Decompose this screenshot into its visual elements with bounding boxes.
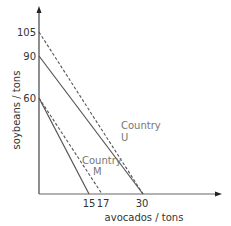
y-tick-90: 90 bbox=[23, 51, 36, 62]
x-tick-17: 17 bbox=[97, 198, 110, 209]
country-u-label-line1: Country bbox=[121, 120, 161, 131]
y-axis-arrow-icon bbox=[37, 6, 42, 13]
y-tick-60: 60 bbox=[23, 93, 36, 104]
y-axis-label: soybeans / tons bbox=[11, 71, 22, 150]
chart-canvas: 105 90 60 15 17 30 avocados / tons soybe… bbox=[0, 0, 231, 226]
x-axis-arrow-icon bbox=[215, 192, 222, 197]
x-axis-label: avocados / tons bbox=[105, 212, 184, 223]
country-u-dashed-line bbox=[39, 32, 143, 194]
x-tick-30: 30 bbox=[136, 198, 149, 209]
y-tick-105: 105 bbox=[17, 27, 36, 38]
country-m-label-line2: M bbox=[93, 166, 102, 177]
country-m-dashed-line bbox=[39, 98, 102, 194]
x-tick-15: 15 bbox=[83, 198, 96, 209]
ppf-chart: 105 90 60 15 17 30 avocados / tons soybe… bbox=[0, 0, 231, 226]
country-u-label-line2: U bbox=[121, 132, 128, 143]
country-m-label-line1: Country bbox=[82, 155, 122, 166]
